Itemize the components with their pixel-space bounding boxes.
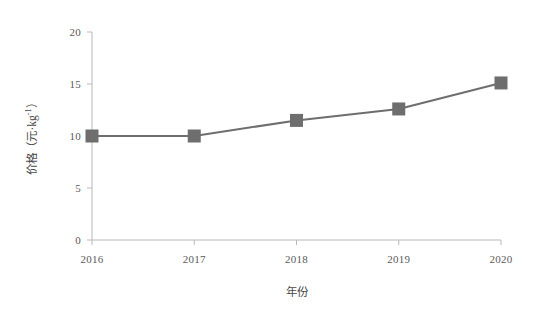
series-line [92,83,501,136]
y-tick-label: 15 [0,78,81,90]
x-tick-label: 2018 [285,253,308,265]
y-axis-title-main: 价格（元·kg [26,115,38,174]
y-tick-label: 0 [0,234,81,246]
x-tick-label: 2020 [490,253,513,265]
y-axis-title: 价格（元·kg-1） [23,97,39,174]
data-point-marker [86,130,99,143]
line-chart: 05101520 20162017201820192020 年份 价格（元·kg… [0,0,538,317]
y-tick-label: 10 [0,130,81,142]
plot-canvas [0,0,538,317]
y-tick-label: 20 [0,26,81,38]
data-point-marker [495,76,508,89]
y-tick-label: 5 [0,182,81,194]
axis-ticks [87,32,501,245]
x-tick-label: 2019 [387,253,410,265]
data-point-marker [290,114,303,127]
x-tick-label: 2016 [81,253,104,265]
x-axis-title: 年份 [286,283,308,299]
data-point-marker [392,102,405,115]
data-point-marker [188,130,201,143]
x-tick-label: 2017 [183,253,206,265]
y-axis-title-tail: ） [26,97,38,108]
y-axis-title-superscript: -1 [24,108,33,115]
data-series [86,76,508,142]
